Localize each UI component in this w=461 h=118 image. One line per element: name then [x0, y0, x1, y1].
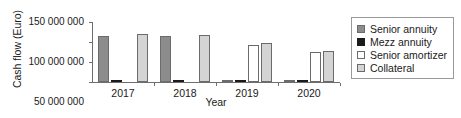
bar-collateral-2020	[323, 51, 334, 82]
x-tick-mark	[278, 83, 279, 86]
bar-senior-annuity-2019	[222, 80, 233, 82]
legend-item-label: Senior amortizer	[370, 49, 447, 61]
legend-item-label: Mezz annuity	[370, 36, 432, 48]
bar-chart-figure: Cash flow (Euro) 050 000 000100 000 0001…	[0, 0, 461, 118]
legend-swatch-senior-annuity-icon	[357, 25, 365, 33]
bar-mezz-annuity-2020	[297, 80, 308, 82]
legend-item-label: Collateral	[370, 62, 414, 74]
y-axis-title: Cash flow (Euro)	[10, 0, 24, 99]
bar-group	[216, 22, 278, 82]
bar-senior-annuity-2020	[284, 80, 295, 82]
bar-collateral-2018	[199, 35, 210, 82]
x-axis-title: Year	[92, 96, 340, 108]
bar-collateral-2017	[137, 34, 148, 82]
legend-item-label: Senior annuity	[370, 23, 437, 35]
x-tick-mark	[154, 83, 155, 86]
y-tick-label: 50 000 000	[34, 97, 84, 107]
legend-item-senior-amortizer[interactable]: Senior amortizer	[357, 48, 447, 61]
y-tick-label: 150 000 000	[28, 17, 84, 27]
x-tick-mark	[216, 83, 217, 86]
x-tick-mark	[340, 83, 341, 86]
y-tick-mark: 0	[89, 82, 92, 83]
bar-senior-annuity-2017	[98, 36, 109, 82]
legend-item-collateral[interactable]: Collateral	[357, 61, 447, 74]
bar-collateral-2019	[261, 43, 272, 82]
bar-senior-amortizer-2019	[248, 45, 259, 82]
bar-senior-amortizer-2020	[310, 52, 321, 82]
bar-mezz-annuity-2017	[111, 80, 122, 82]
bar-group	[154, 22, 216, 82]
bar-senior-annuity-2018	[160, 36, 171, 82]
bar-mezz-annuity-2018	[173, 80, 184, 82]
y-tick-label: 100 000 000	[28, 57, 84, 67]
legend-swatch-collateral-icon	[357, 64, 365, 72]
bar-mezz-annuity-2019	[235, 80, 246, 82]
legend-item-mezz-annuity[interactable]: Mezz annuity	[357, 35, 447, 48]
legend-item-senior-annuity[interactable]: Senior annuity	[357, 22, 447, 35]
legend-swatch-senior-amortizer-icon	[357, 51, 365, 59]
chart-legend: Senior annuityMezz annuitySenior amortiz…	[351, 17, 454, 79]
legend-swatch-mezz-annuity-icon	[357, 38, 365, 46]
bar-group	[278, 22, 340, 82]
plot-area: 050 000 000100 000 000150 000 000 201720…	[92, 22, 340, 82]
bar-group	[92, 22, 154, 82]
